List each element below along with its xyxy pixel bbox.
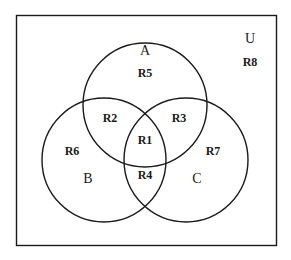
- set-b-label: B: [83, 171, 92, 186]
- set-c-label: C: [192, 171, 201, 186]
- region-r8-label: R8: [243, 55, 258, 69]
- region-r1-label: R1: [138, 133, 153, 147]
- venn-diagram-svg: U R8 A R5 R2 R3 R1 R6 R7 B C R4: [0, 0, 291, 260]
- region-r2-label: R2: [103, 111, 118, 125]
- set-a-label: A: [140, 43, 151, 58]
- universe-label: U: [245, 31, 255, 46]
- venn-diagram-canvas: U R8 A R5 R2 R3 R1 R6 R7 B C R4: [0, 0, 291, 260]
- region-r6-label: R6: [65, 144, 80, 158]
- region-r5-label: R5: [138, 66, 153, 80]
- region-r7-label: R7: [206, 144, 221, 158]
- region-r4-label: R4: [138, 168, 153, 182]
- region-r3-label: R3: [172, 111, 187, 125]
